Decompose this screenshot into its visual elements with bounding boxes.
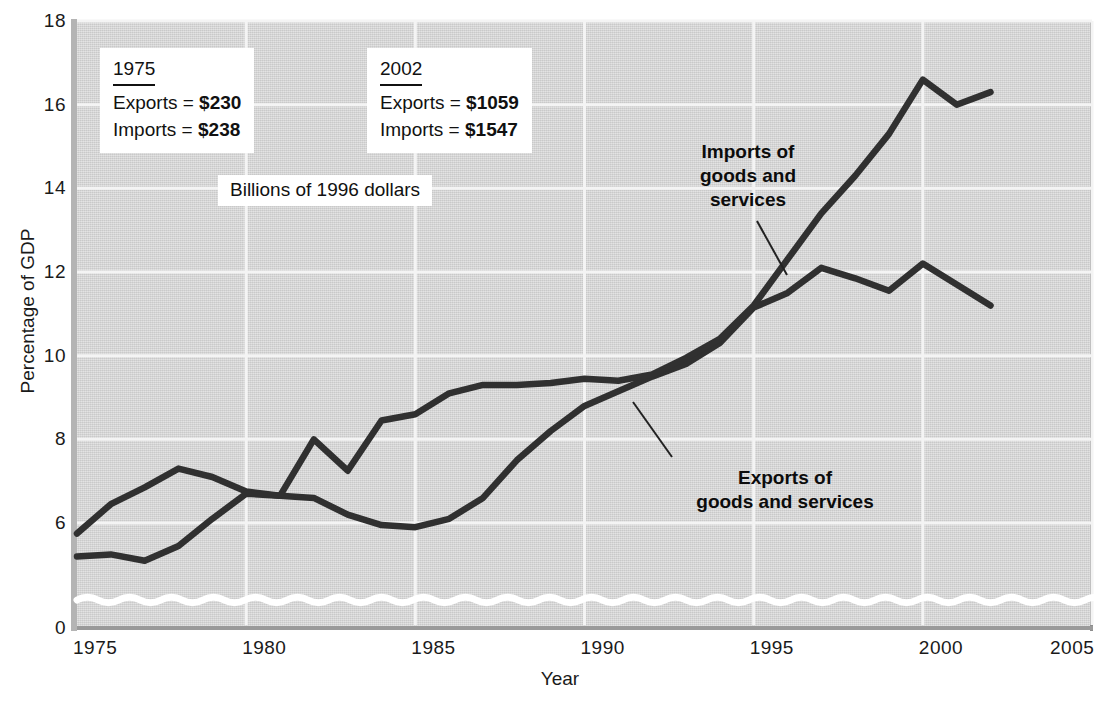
callout-2002-row-imports: Imports = $1547 [380,116,519,144]
exports-annotation-line2: goods and services [696,491,873,512]
y-tick-label-12: 12 [44,262,66,281]
callout-2002-exports-value: $1059 [466,92,519,113]
x-tick-label-1975: 1975 [73,637,117,659]
imports-annotation: Imports of goods and services [648,140,848,211]
axis-break-wave [77,597,1120,603]
imports-annotation-line1: Imports of [702,141,795,162]
callout-1975-row-exports: Exports = $230 [113,89,241,117]
x-axis-title: Year [0,668,1120,690]
x-tick-label-1995: 1995 [750,637,794,659]
y-tick-label-10: 10 [44,346,66,365]
callout-1975-exports-value: $230 [199,92,241,113]
exports-annotation-line1: Exports of [738,467,832,488]
y-axis-title: Percentage of GDP [17,191,39,431]
callout-2002: 2002 Exports = $1059 Imports = $1547 [367,48,532,153]
callout-2002-title: 2002 [380,55,422,86]
callout-1975: 1975 Exports = $230 Imports = $238 [100,48,254,153]
annotation-leader-lines [633,221,787,457]
x-tick-label-1985: 1985 [411,637,455,659]
y-tick-label-18: 18 [44,11,66,30]
x-tick-label-1980: 1980 [242,637,286,659]
callout-2002-imports-label: Imports = [380,119,465,140]
x-tick-label-1990: 1990 [581,637,625,659]
imports-annotation-line2: goods and [700,165,796,186]
callout-2002-imports-value: $1547 [465,119,518,140]
imports-annotation-line3: services [710,189,786,210]
y-tick-label-6: 6 [55,513,66,532]
callout-2002-exports-label: Exports = [380,92,466,113]
exports-annotation: Exports of goods and services [640,466,930,514]
x-tick-label-2005: 2005 [1050,637,1094,659]
callout-1975-imports-label: Imports = [113,119,198,140]
callout-1975-title: 1975 [113,55,155,86]
unit-note: Billions of 1996 dollars [218,175,432,206]
x-tick-label-2000: 2000 [919,637,963,659]
y-tick-label-0: 0 [55,618,66,637]
callout-1975-exports-label: Exports = [113,92,199,113]
figure-canvas: 1816141210860 19751980198519901995200020… [0,0,1120,705]
y-tick-label-8: 8 [55,429,66,448]
callout-1975-imports-value: $238 [198,119,240,140]
y-tick-label-14: 14 [44,178,66,197]
callout-1975-row-imports: Imports = $238 [113,116,241,144]
y-tick-label-16: 16 [44,95,66,114]
callout-2002-row-exports: Exports = $1059 [380,89,519,117]
